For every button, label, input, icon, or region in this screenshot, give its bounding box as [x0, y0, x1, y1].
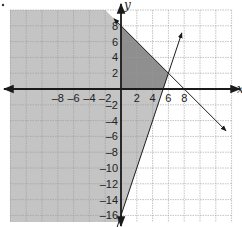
x-tick-label: –4 — [83, 92, 95, 104]
y-tick-label: –14 — [100, 194, 118, 206]
x-tick-label: 6 — [165, 92, 171, 104]
y-tick-label: –12 — [100, 178, 118, 190]
y-tick-label: –4 — [106, 115, 118, 127]
y-tick-label: 4 — [112, 51, 118, 63]
stray-dot — [2, 4, 4, 6]
x-tick-label: –6 — [67, 92, 79, 104]
y-tick-label: 8 — [112, 20, 118, 32]
x-axis-label: x — [237, 82, 242, 96]
y-tick-label: 2 — [112, 67, 118, 79]
inequality-graph: –8–6–4–224688642–2–4–6–8–10–12–14–16xy — [0, 0, 242, 227]
x-tick-label: 4 — [150, 92, 156, 104]
y-tick-label: –2 — [106, 99, 118, 111]
y-tick-label: –6 — [106, 130, 118, 142]
y-tick-label: –16 — [100, 209, 118, 221]
x-tick-label: 8 — [181, 92, 187, 104]
y-tick-label: –10 — [100, 162, 118, 174]
y-axis-label: y — [123, 0, 131, 12]
y-tick-label: 6 — [112, 36, 118, 48]
x-tick-label: 2 — [134, 92, 140, 104]
x-tick-label: –8 — [52, 92, 64, 104]
y-tick-label: –8 — [106, 146, 118, 158]
